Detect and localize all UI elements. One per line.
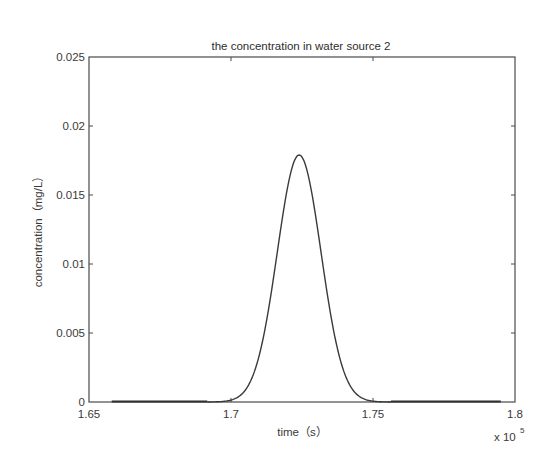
chart-title: the concentration in water source 2 [212, 40, 391, 52]
x-axis-multiplier: x 10 5 [494, 426, 525, 443]
x-tick-label: 1.8 [507, 408, 523, 420]
y-tick-label: 0.015 [56, 189, 85, 201]
plot-area: 00.0050.010.0150.020.025 1.651.71.751.8 [56, 51, 523, 420]
x-multiplier-exponent: 5 [520, 426, 525, 435]
x-tick-label: 1.75 [362, 408, 384, 420]
x-multiplier-base: x 10 [494, 431, 516, 443]
x-tick-label: 1.7 [223, 408, 239, 420]
x-tick-label: 1.65 [78, 408, 100, 420]
y-tick-label: 0.02 [63, 120, 85, 132]
y-axis: 00.0050.010.0150.020.025 [56, 51, 515, 408]
plot-frame [89, 57, 515, 402]
y-tick-label: 0.025 [56, 51, 85, 63]
chart: the concentration in water source 2 00.0… [0, 0, 550, 456]
y-tick-label: 0.01 [63, 258, 85, 270]
y-tick-label: 0.005 [56, 327, 85, 339]
x-axis-title: time（s） [277, 426, 326, 438]
series-line-concentration [207, 155, 391, 402]
x-axis: 1.651.71.751.8 [78, 57, 523, 420]
y-axis-title: concentration（mg/L） [32, 171, 44, 288]
y-tick-label: 0 [79, 396, 85, 408]
